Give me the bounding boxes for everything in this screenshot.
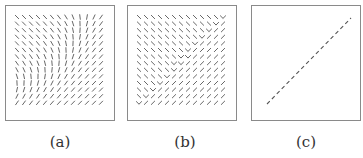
panel-c <box>251 5 361 121</box>
caption-a: (a) <box>40 133 80 151</box>
panel-a <box>5 5 115 121</box>
dashed-discontinuity-line <box>252 6 362 122</box>
caption-c: (c) <box>286 133 326 151</box>
orientation-field-discontinuous <box>128 6 238 122</box>
caption-b: (b) <box>165 133 205 151</box>
panel-b <box>127 5 237 121</box>
orientation-field-smooth <box>6 6 116 122</box>
